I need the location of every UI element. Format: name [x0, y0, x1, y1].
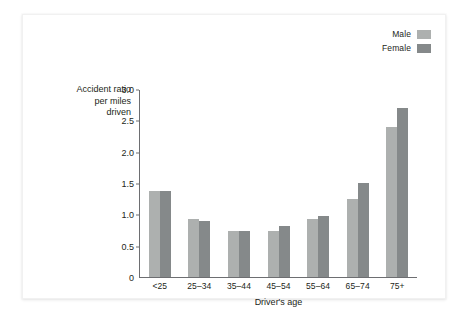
bar-female[interactable]: [160, 191, 171, 277]
chart-legend: Male Female: [382, 29, 431, 53]
x-axis-tick-label: 55–64: [298, 281, 338, 291]
x-axis-tick-label: 65–74: [338, 281, 378, 291]
bar-group: [219, 90, 259, 277]
y-axis-tick-mark: [136, 184, 139, 185]
bar-female[interactable]: [358, 183, 369, 277]
legend-entry-male: Male: [382, 29, 431, 39]
x-axis-tick-label: 75+: [377, 281, 417, 291]
bar-groups: [140, 90, 417, 277]
legend-label-female: Female: [382, 43, 411, 53]
y-axis-tick-mark: [136, 152, 139, 153]
y-axis-title-line-1: Accident ratio: [43, 84, 131, 96]
y-axis-tick-label: 1.0: [121, 210, 134, 220]
bar-female[interactable]: [397, 108, 408, 277]
legend-swatch-female: [417, 44, 431, 53]
bar-female[interactable]: [199, 221, 210, 277]
y-axis-tick-mark: [136, 121, 139, 122]
bar-male[interactable]: [347, 199, 358, 277]
y-axis-tick-label: 2.5: [121, 116, 134, 126]
bar-male[interactable]: [149, 191, 160, 277]
x-axis-line: [139, 277, 417, 278]
bar-male[interactable]: [268, 231, 279, 277]
bar-group: [298, 90, 338, 277]
x-axis-tick-label: 25–34: [180, 281, 220, 291]
plot-area: 00.51.01.52.02.53.0: [139, 90, 417, 278]
bar-group: [259, 90, 299, 277]
legend-entry-female: Female: [382, 43, 431, 53]
x-axis-tick-label: 45–54: [259, 281, 299, 291]
legend-label-male: Male: [392, 29, 411, 39]
bar-group: [140, 90, 180, 277]
y-axis-tick-label: 3.0: [121, 85, 134, 95]
bar-female[interactable]: [239, 231, 250, 277]
y-axis-tick-label: 2.0: [121, 148, 134, 158]
x-axis-tick-label: <25: [140, 281, 180, 291]
y-axis-title-line-3: driven: [43, 107, 131, 119]
bar-male[interactable]: [307, 219, 318, 277]
bar-group: [377, 90, 417, 277]
y-axis-title: Accident ratio per miles driven: [43, 84, 131, 119]
y-axis-tick-label: 1.5: [121, 179, 134, 189]
bar-group: [338, 90, 378, 277]
bar-female[interactable]: [279, 226, 290, 277]
bar-male[interactable]: [386, 127, 397, 277]
legend-swatch-male: [417, 30, 431, 39]
bar-group: [180, 90, 220, 277]
bar-male[interactable]: [228, 231, 239, 277]
bar-female[interactable]: [318, 216, 329, 277]
x-axis-title: Driver's age: [140, 297, 417, 307]
y-axis-tick-label: 0.5: [121, 242, 134, 252]
x-axis-tick-labels: <2525–3435–4445–5455–6465–7475+: [140, 281, 417, 291]
y-axis-tick-mark: [136, 246, 139, 247]
bar-male[interactable]: [188, 219, 199, 277]
y-axis-tick-mark: [136, 90, 139, 91]
y-axis-title-line-2: per miles: [43, 96, 131, 108]
chart-card: Male Female Accident ratio per miles dri…: [22, 14, 446, 299]
y-axis-tick-mark: [136, 215, 139, 216]
x-axis-tick-label: 35–44: [219, 281, 259, 291]
y-axis-tick-label: 0: [129, 273, 134, 283]
